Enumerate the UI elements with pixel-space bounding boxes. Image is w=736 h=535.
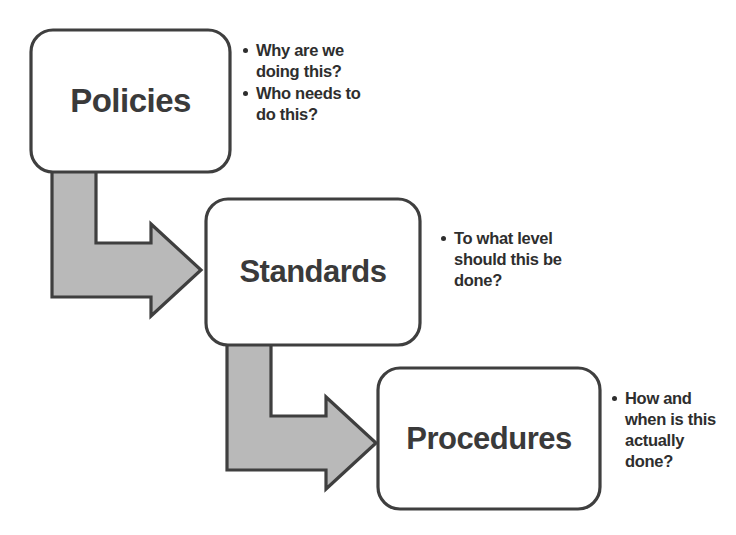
annotation-line: Why are we [256,40,383,61]
annotation-policies: Why are we doing this? Who needs to do t… [243,40,383,126]
annotation-item: How and when is this actually done? [612,388,732,472]
diagram-canvas: Policies Standards Procedures Why are we… [0,0,736,535]
annotation-item: To what level should this be done? [441,228,591,291]
annotation-list-procedures: How and when is this actually done? [612,388,732,472]
bullet-icon [441,236,446,241]
annotation-line: done? [625,451,732,472]
annotation-list-standards: To what level should this be done? [441,228,591,291]
node-label-procedures: Procedures [378,368,600,509]
connector-standards-to-procedures [227,341,376,489]
annotation-item: Who needs to do this? [243,83,383,125]
bullet-icon [612,396,617,401]
node-label-policies: Policies [31,30,230,172]
annotation-line: How and [625,388,732,409]
annotation-line: Who needs to [256,83,383,104]
annotation-line: actually [625,430,732,451]
connector-policies-to-standards [52,168,201,316]
annotation-line: do this? [256,104,383,125]
bullet-icon [243,48,248,53]
annotation-standards: To what level should this be done? [441,228,591,292]
annotation-list-policies: Why are we doing this? Who needs to do t… [243,40,383,125]
annotation-line: doing this? [256,61,383,82]
annotation-item: Why are we doing this? [243,40,383,82]
node-label-standards: Standards [206,199,420,345]
annotation-line: To what level [454,228,591,249]
annotation-line: should this be [454,249,591,270]
bullet-icon [243,91,248,96]
annotation-line: when is this [625,409,732,430]
annotation-procedures: How and when is this actually done? [612,388,732,473]
annotation-line: done? [454,270,591,291]
